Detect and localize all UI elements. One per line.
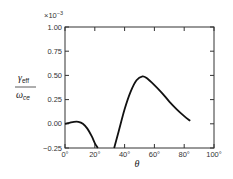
y-tick-label: 0.25	[47, 95, 62, 104]
x-tick-label: 80°	[179, 150, 190, 159]
svg-text:γeff: γeff	[18, 72, 29, 84]
y-tick-label: 1.00	[47, 23, 62, 32]
x-tick-labels: 0°20°40°60°80°100°	[61, 150, 221, 159]
x-tick-label: 60°	[149, 150, 160, 159]
x-tick-label: 20°	[89, 150, 100, 159]
y-tick-label: 0.00	[47, 119, 62, 128]
chart: 0°20°40°60°80°100° −0.250.000.250.500.75…	[0, 0, 233, 179]
data-curves	[65, 76, 190, 148]
svg-text:ωce: ωce	[16, 89, 30, 101]
y-multiplier: ×10−3	[44, 10, 63, 20]
data-curve-segment-2	[114, 76, 190, 148]
x-tick-label: 0°	[61, 150, 68, 159]
x-tick-label: 40°	[119, 150, 130, 159]
y-tick-label: 0.50	[47, 71, 62, 80]
x-tick-label: 100°	[206, 150, 222, 159]
y-tick-label: 0.75	[47, 47, 62, 56]
y-tick-label: −0.25	[43, 144, 62, 153]
data-curve-segment-1	[65, 122, 98, 148]
y-axis-label: γeff ωce	[15, 72, 36, 101]
y-tick-labels: −0.250.000.250.500.751.00	[43, 23, 62, 153]
x-axis-label: θ	[135, 158, 140, 169]
